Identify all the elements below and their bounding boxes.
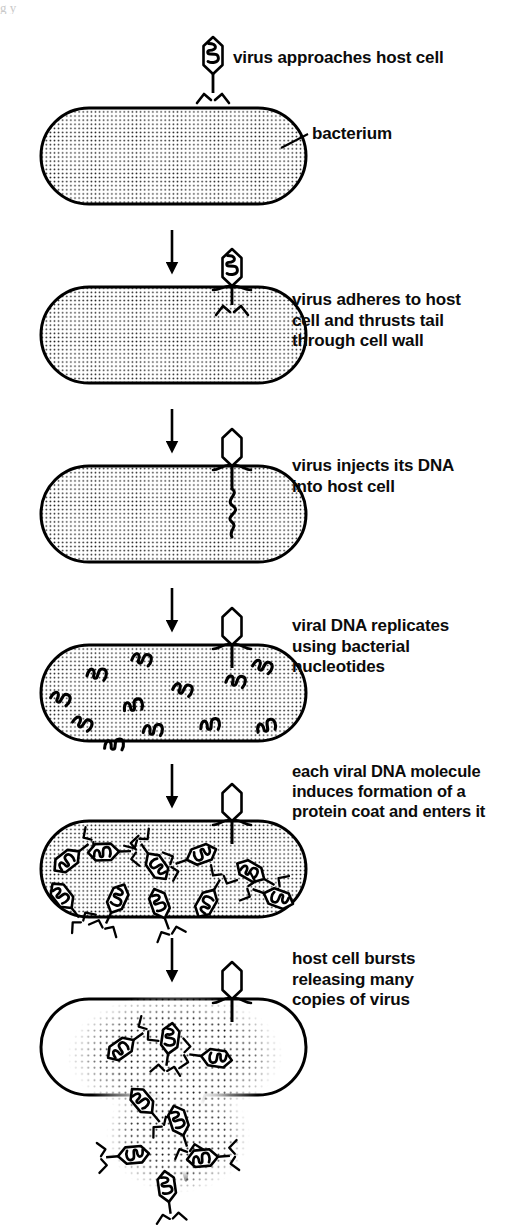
caption-step-5: each viral DNA molecule induces formatio…	[292, 761, 485, 821]
released-contents-cloud	[60, 988, 300, 1197]
virus-free	[197, 37, 229, 103]
bacterium-cell-1	[41, 108, 306, 204]
step-2-group	[41, 249, 306, 383]
bacterium-label: bacterium	[312, 124, 392, 145]
step-3-group	[41, 429, 306, 562]
caption-step-4: viral DNA replicates using bacterial nuc…	[292, 616, 449, 678]
bacterium-cell-3	[41, 466, 306, 562]
caption-step-6: host cell bursts releasing many copies o…	[292, 949, 415, 1011]
step-5-group	[41, 784, 306, 942]
step-4-group	[41, 608, 306, 750]
bacterium-cell-2	[41, 287, 306, 383]
caption-step-1: virus approaches host cell	[233, 48, 444, 69]
caption-step-2: virus adheres to host cell and thrusts t…	[292, 290, 461, 352]
step-6-group	[41, 962, 306, 1224]
caption-step-3: virus injects its DNA into host cell	[292, 456, 454, 497]
lytic-cycle-diagram	[0, 0, 530, 1225]
